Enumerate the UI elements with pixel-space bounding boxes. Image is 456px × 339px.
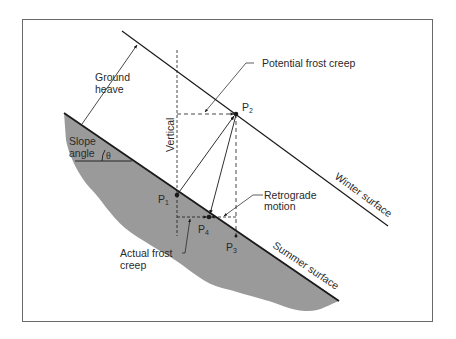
slope-angle-label-2: angle [69,147,95,159]
actual-frost-creep-label-2: creep [120,259,146,271]
p2-label: P2 [242,101,253,114]
slope-angle-label: Slope [69,135,96,147]
p2-to-p4-arrow [210,115,236,214]
theta-label: θ [106,150,111,161]
retrograde-motion-label-2: motion [264,200,296,212]
potential-frost-creep-label: Potential frost creep [262,57,356,69]
frost-creep-diagram: θ Ground heave Potential frost creep Slo… [0,0,456,339]
winter-surface-label: Winter surface [333,170,395,220]
vertical-label: Vertical [164,118,176,152]
ground-heave-label: Ground [95,71,130,83]
ground-heave-label-2: heave [95,83,124,95]
retrograde-leader [224,195,263,216]
point-p2 [234,112,239,117]
point-p3 [235,235,238,238]
point-p4 [207,215,212,220]
actual-frost-creep-label: Actual frost [120,247,173,259]
ground-mass [64,113,339,311]
point-p1 [175,193,180,198]
